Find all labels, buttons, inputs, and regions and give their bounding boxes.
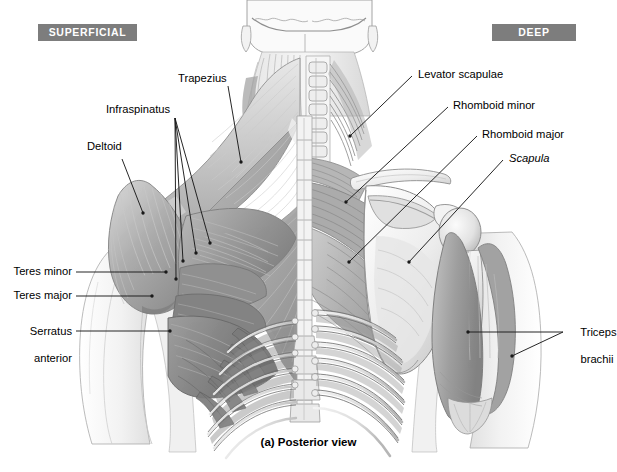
label-scapula: Scapula	[509, 152, 549, 166]
anatomy-illustration	[0, 0, 617, 472]
label-trapezius: Trapezius	[178, 72, 227, 86]
label-deltoid: Deltoid	[87, 140, 122, 154]
label-rhomboid-major: Rhomboid major	[482, 128, 564, 142]
label-triceps-brachii-line2: brachii	[580, 353, 613, 365]
label-infraspinatus: Infraspinatus	[106, 103, 170, 117]
figure-caption: (a) Posterior view	[0, 436, 617, 448]
label-rhomboid-minor: Rhomboid minor	[453, 99, 535, 113]
label-triceps-brachii: Triceps brachii	[568, 312, 617, 380]
label-serratus-anterior-line1: Serratus	[30, 325, 72, 337]
skull-base	[241, 0, 377, 58]
anatomy-figure: SUPERFICIAL DEEP Trapezius Infraspinatus…	[0, 0, 617, 472]
superficial-badge: SUPERFICIAL	[38, 24, 137, 41]
label-levator-scapulae: Levator scapulae	[418, 68, 503, 82]
label-serratus-anterior-line2: anterior	[34, 352, 72, 364]
label-teres-minor: Teres minor	[0, 265, 72, 279]
label-serratus-anterior: Serratus anterior	[0, 311, 72, 379]
label-triceps-brachii-line1: Triceps	[580, 326, 616, 338]
deep-badge: DEEP	[492, 24, 576, 41]
label-teres-major: Teres major	[0, 289, 72, 303]
